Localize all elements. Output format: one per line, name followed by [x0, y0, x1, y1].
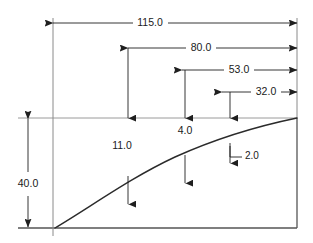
- dimension-115: 115.0: [53, 16, 297, 28]
- drawing-svg-root: 115.0 80.0 53.0 32.0 40.0: [0, 0, 313, 243]
- dimension-32-label: 32.0: [256, 85, 277, 97]
- callout-4: 4.0: [178, 70, 193, 183]
- technical-drawing-canvas: 115.0 80.0 53.0 32.0 40.0: [0, 0, 313, 243]
- dimension-40: 40.0: [18, 119, 39, 227]
- callout-4-label: 4.0: [178, 124, 193, 136]
- callout-11: 11.0: [112, 48, 132, 204]
- dimension-53-label: 53.0: [229, 63, 250, 75]
- dimension-53: 53.0: [182, 63, 297, 75]
- callout-11-label: 11.0: [112, 139, 132, 151]
- dimension-80-label: 80.0: [191, 41, 212, 53]
- base-geometry-group: [18, 18, 297, 236]
- callout-2-label: 2.0: [245, 150, 259, 161]
- dimension-32: 32.0: [222, 85, 297, 97]
- dimension-40-label: 40.0: [18, 177, 39, 189]
- callout-2-leader: [230, 146, 242, 157]
- profile-curve: [55, 118, 297, 228]
- dimension-80: 80.0: [128, 41, 297, 53]
- dimension-115-label: 115.0: [137, 16, 163, 28]
